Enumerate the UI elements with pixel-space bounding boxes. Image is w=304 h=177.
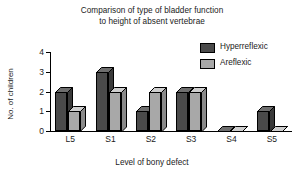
bar [149, 92, 161, 132]
bar-front-face [68, 111, 80, 131]
y-tick-label: 3 [39, 68, 44, 77]
bar [96, 72, 108, 131]
bar-front-face [176, 92, 188, 132]
bar [109, 92, 121, 132]
bar-front-face [109, 92, 121, 132]
legend-swatch-icon [200, 43, 215, 53]
bar [136, 111, 148, 131]
bar [189, 92, 201, 132]
bar-side-face [282, 126, 289, 133]
legend-item: Areflexic [200, 57, 300, 70]
legend-item: Hyperreflexic [200, 41, 300, 54]
legend: HyperreflexicAreflexic [200, 41, 300, 73]
y-tick-label: 0 [39, 127, 44, 136]
x-tick-label: S2 [146, 135, 156, 144]
chart-title-line-2: to height of absent vertebrae [0, 17, 304, 28]
bar [176, 92, 188, 132]
y-axis-title: No. of children [4, 58, 16, 130]
bar-side-face [121, 87, 128, 134]
chart-title: Comparison of type of bladder function t… [0, 6, 304, 27]
y-tick-mark [46, 92, 50, 93]
bar-front-face [55, 92, 67, 132]
bar-side-face [201, 87, 208, 134]
x-tick-label: S4 [226, 135, 236, 144]
y-tick-label: 4 [39, 48, 44, 57]
bar-front-face [189, 92, 201, 132]
bar-side-face [161, 87, 168, 134]
x-tick-label: L5 [65, 135, 74, 144]
bar-chart: Comparison of type of bladder function t… [0, 0, 304, 177]
x-axis-title: Level of bony defect [0, 158, 304, 167]
chart-title-line-1: Comparison of type of bladder function [0, 6, 304, 17]
y-tick-mark [46, 131, 50, 132]
bar-front-face [136, 111, 148, 131]
bar-side-face [80, 106, 87, 133]
legend-label: Areflexic [220, 59, 251, 67]
bar [68, 111, 80, 131]
bar-front-face [96, 72, 108, 131]
y-axis-line [50, 52, 51, 131]
y-tick-label: 2 [39, 87, 44, 96]
legend-swatch-icon [200, 59, 215, 69]
y-tick-mark [46, 52, 50, 53]
bar-front-face [149, 92, 161, 132]
bar-front-face [257, 111, 269, 131]
y-tick-mark [46, 72, 50, 73]
x-tick-label: S3 [186, 135, 196, 144]
y-tick-mark [46, 111, 50, 112]
legend-label: Hyperreflexic [220, 43, 268, 51]
bar-side-face [242, 126, 249, 133]
x-tick-label: S5 [267, 135, 277, 144]
x-tick-label: S1 [105, 135, 115, 144]
bar [257, 111, 269, 131]
y-tick-label: 1 [39, 107, 44, 116]
bar [55, 92, 67, 132]
